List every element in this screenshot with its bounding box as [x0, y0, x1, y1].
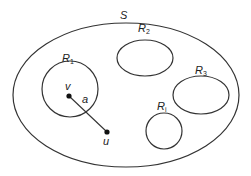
region-r2-ellipse — [117, 40, 173, 76]
outer-set-label: S — [120, 9, 128, 21]
region-r3-ellipse — [173, 76, 229, 114]
region-r1-label: R1 — [62, 52, 74, 65]
region-r3-label: R3 — [195, 64, 207, 77]
set-diagram: S R1 R2 R3 Ri v u a — [0, 0, 251, 176]
region-ri-label: Ri — [157, 100, 167, 113]
segment-a-label: a — [82, 93, 88, 105]
point-u-label: u — [103, 135, 109, 147]
point-u-dot — [104, 129, 109, 134]
region-ri-circle — [146, 113, 182, 149]
point-v-dot — [66, 93, 71, 98]
point-v-label: v — [65, 80, 72, 92]
